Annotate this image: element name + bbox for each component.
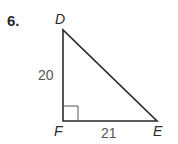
side-length-fe: 21: [101, 125, 117, 141]
vertex-label-e: E: [153, 123, 162, 139]
right-angle-marker: [63, 106, 78, 121]
right-triangle-diagram: [0, 0, 178, 144]
triangle-def: [63, 30, 157, 121]
side-length-df: 20: [38, 67, 54, 83]
vertex-label-f: F: [54, 123, 63, 139]
vertex-label-d: D: [55, 11, 65, 27]
